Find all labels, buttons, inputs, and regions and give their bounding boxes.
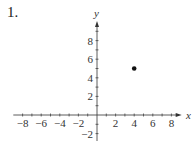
y-tick-label: 6: [88, 53, 94, 65]
x-axis-label: x: [185, 109, 191, 121]
y-tick-label: 4: [88, 72, 94, 84]
x-axis-arrow-icon: [176, 113, 182, 117]
y-tick-label: −2: [81, 128, 93, 140]
x-tick-label: −6: [35, 117, 47, 129]
data-points: [132, 66, 137, 71]
x-tick-label: 2: [113, 117, 119, 129]
x-tick-label: 6: [150, 117, 156, 129]
y-tick-label: 8: [88, 35, 94, 47]
y-axis-arrow-icon: [95, 21, 99, 27]
x-tick-label: −8: [17, 117, 29, 129]
x-tick-label: −4: [54, 117, 66, 129]
x-tick-label: 4: [131, 117, 137, 129]
y-tick-label: 2: [88, 90, 94, 102]
data-point: [132, 66, 137, 71]
x-tick-label: 8: [169, 117, 175, 129]
y-axis-label: y: [93, 7, 99, 19]
coordinate-plane: −8−6−4−22468−22468 x y: [0, 0, 196, 141]
